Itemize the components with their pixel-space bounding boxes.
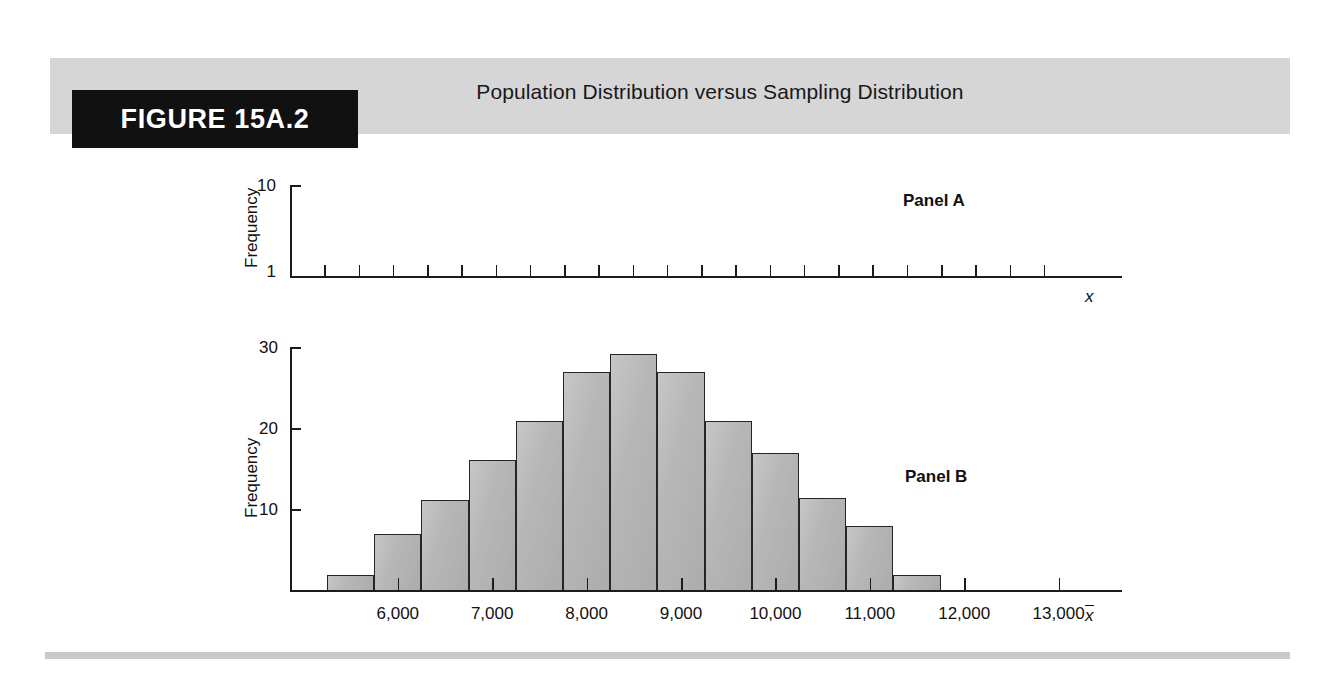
- panel-a-tick: [667, 265, 669, 276]
- panel-b-label: Panel B: [905, 467, 967, 487]
- histogram-bar: [657, 372, 704, 591]
- panel-b-xtick-label: 9,000: [636, 604, 726, 624]
- panel-a-tick: [1044, 265, 1046, 276]
- panel-b-xtick-label: 7,000: [447, 604, 537, 624]
- x-bar-glyph: x: [1085, 605, 1094, 624]
- panel-b-ytick-mark-20: [290, 428, 301, 430]
- panel-a-tick: [359, 265, 361, 276]
- histogram-bar: [610, 354, 657, 591]
- histogram-bar: [752, 453, 799, 591]
- panel-b-xtick-mark: [492, 578, 494, 591]
- panel-b-ytick-20: 20: [232, 419, 278, 439]
- figure-title: Population Distribution versus Sampling …: [370, 80, 1070, 104]
- panel-a-tick: [941, 265, 943, 276]
- figure-tag-box: FIGURE 15A.2: [72, 90, 358, 148]
- histogram-bar: [893, 575, 940, 591]
- panel-a-tick: [1010, 265, 1012, 276]
- histogram-bar: [516, 421, 563, 591]
- panel-a-tick: [872, 265, 874, 276]
- panel-b-ytick-30: 30: [232, 338, 278, 358]
- histogram-bar: [705, 421, 752, 591]
- panel-a-tick: [975, 265, 977, 276]
- panel-a-tick: [324, 265, 326, 276]
- panel-a-tick: [461, 265, 463, 276]
- panel-a-tick: [496, 265, 498, 276]
- panel-a-x-axis: [290, 276, 1122, 278]
- panel-a-tick: [564, 265, 566, 276]
- panel-b-y-axis: [290, 347, 292, 591]
- histogram-bar: [469, 460, 516, 591]
- panel-b-xtick-mark: [1059, 578, 1061, 591]
- panel-a-tick: [907, 265, 909, 276]
- panel-a-tick: [427, 265, 429, 276]
- panel-b-xtick-mark: [681, 578, 683, 591]
- panel-b-x-axis: [290, 590, 1122, 592]
- panel-a-tick: [804, 265, 806, 276]
- panel-b-ytick-mark-10: [290, 509, 301, 511]
- footer-rule: [45, 652, 1290, 659]
- panel-a-tick: [633, 265, 635, 276]
- histogram-bar: [563, 372, 610, 591]
- panel-a-tick: [701, 265, 703, 276]
- panel-b-xtick-mark: [587, 578, 589, 591]
- panel-a-y-axis-label: Frequency: [242, 188, 262, 268]
- panel-b-xtick-label: 6,000: [353, 604, 443, 624]
- panel-a-label: Panel A: [903, 191, 965, 211]
- panel-a-tick: [770, 265, 772, 276]
- panel-b-xtick-mark: [775, 578, 777, 591]
- panel-a-tick: [735, 265, 737, 276]
- panel-b-xtick-label: 12,000: [919, 604, 1009, 624]
- panel-b-xtick-mark: [964, 578, 966, 591]
- histogram-bar: [421, 500, 468, 592]
- panel-b-xtick-mark: [398, 578, 400, 591]
- panel-a-ytick-mark-10: [290, 185, 301, 187]
- panel-a-tick: [838, 265, 840, 276]
- panel-b-ytick-mark-30: [290, 347, 301, 349]
- histogram-bar: [799, 498, 846, 591]
- panel-a-ytick-1: 1: [236, 262, 276, 282]
- panel-b-xtick-label: 11,000: [825, 604, 915, 624]
- panel-a-ytick-10: 10: [236, 176, 276, 196]
- figure-tag-label: FIGURE 15A.2: [72, 90, 358, 148]
- panel-a-x-variable: x: [1085, 287, 1094, 307]
- panel-a-tick: [598, 265, 600, 276]
- panel-b-xtick-label: 8,000: [542, 604, 632, 624]
- figure-page: Population Distribution versus Sampling …: [0, 0, 1338, 673]
- panel-b-xtick-mark: [870, 578, 872, 591]
- panel-b-ytick-10: 10: [232, 500, 278, 520]
- panel-a-y-axis: [290, 185, 292, 277]
- panel-b-xtick-label: 10,000: [730, 604, 820, 624]
- histogram-bar: [327, 575, 374, 591]
- panel-a-tick: [530, 265, 532, 276]
- panel-b-x-variable: x: [1085, 605, 1094, 626]
- panel-a-tick: [393, 265, 395, 276]
